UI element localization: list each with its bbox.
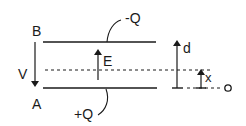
label-e: E: [103, 53, 112, 69]
label-x: x: [205, 70, 212, 85]
label-d: d: [183, 40, 191, 56]
origin-marker: [225, 85, 231, 91]
bottom-charge-leader: [98, 89, 108, 115]
top-charge-leader: [107, 20, 121, 42]
label-minus-q: -Q: [125, 10, 141, 26]
label-v: V: [18, 66, 28, 82]
label-plus-q: +Q: [74, 106, 93, 122]
label-b: B: [32, 23, 41, 39]
capacitor-diagram: B A V E -Q +Q d x: [0, 0, 246, 126]
label-a: A: [32, 96, 42, 112]
